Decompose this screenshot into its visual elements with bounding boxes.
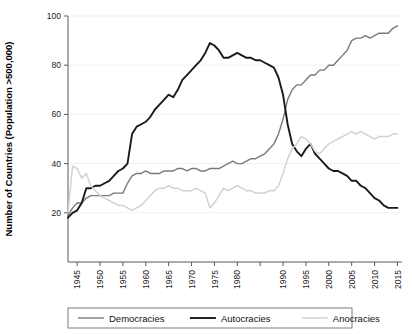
x-tick-label-1980: 1980 xyxy=(232,270,242,289)
chart-legend: DemocraciesAutocraciesAnocracies xyxy=(68,308,380,328)
y-tick-label-40: 40 xyxy=(52,159,62,169)
series-line-autocracies xyxy=(68,43,397,218)
x-tick-label-1965: 1965 xyxy=(164,270,174,289)
axes xyxy=(68,16,402,262)
y-axis-ticks: 20406080100 xyxy=(47,11,68,218)
line-chart: 20406080100 1945195019551960196519701975… xyxy=(0,0,412,334)
x-tick-label-1975: 1975 xyxy=(210,270,220,289)
y-tick-label-100: 100 xyxy=(47,11,61,21)
x-tick-label-1995: 1995 xyxy=(301,270,311,289)
data-series xyxy=(68,26,397,218)
x-tick-label-1955: 1955 xyxy=(118,270,128,289)
x-tick-label-2000: 2000 xyxy=(324,270,334,289)
y-tick-label-80: 80 xyxy=(52,60,62,70)
x-tick-label-2015: 2015 xyxy=(393,270,403,289)
y-axis-label: Number of Countries (Population >500,000… xyxy=(3,41,14,236)
x-tick-label-1970: 1970 xyxy=(187,270,197,289)
x-tick-label-2005: 2005 xyxy=(347,270,357,289)
y-tick-label-20: 20 xyxy=(52,208,62,218)
gridlines xyxy=(68,16,402,213)
x-tick-label-1945: 1945 xyxy=(72,270,82,289)
x-tick-label-1960: 1960 xyxy=(141,270,151,289)
x-tick-label-1990: 1990 xyxy=(278,270,288,289)
legend-label-democracies: Democracies xyxy=(109,313,165,324)
series-line-democracies xyxy=(68,26,397,215)
legend-label-anocracies: Anocracies xyxy=(333,313,380,324)
x-tick-label-2010: 2010 xyxy=(370,270,380,289)
legend-label-autocracies: Autocracies xyxy=(221,313,271,324)
chart-container: 20406080100 1945195019551960196519701975… xyxy=(0,0,412,334)
y-tick-label-60: 60 xyxy=(52,109,62,119)
x-axis-ticks: 1945195019551960196519701975198019901995… xyxy=(72,262,402,289)
x-tick-label-1950: 1950 xyxy=(95,270,105,289)
